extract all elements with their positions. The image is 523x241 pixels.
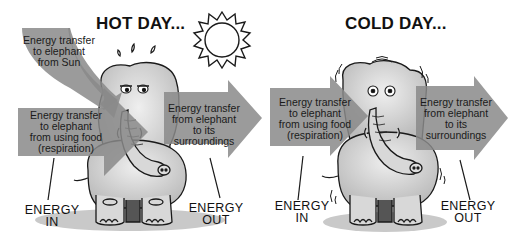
sun-icon [194,12,250,68]
sweat-drops-icon [118,44,155,56]
cold-day-title: COLD DAY... [345,14,447,34]
hot-energy-out-pointer [210,158,220,198]
cold-energy-out-pointer [460,160,470,200]
cold-energy-out-caption: ENERGY OUT [438,200,498,224]
cold-energy-in-label: Energy transfer to elephant from using f… [268,97,362,141]
hot-energy-out-label: Energy transfer from elephant to its sur… [166,103,242,147]
hot-day-title: HOT DAY... [96,14,185,34]
cold-energy-out-label: Energy transfer from elephant to its sur… [416,97,496,141]
hot-energy-in-caption: ENERGY IN [22,204,82,228]
hot-energy-out-caption: ENERGY OUT [186,202,246,226]
hot-energy-in-label: Energy transfer to elephant from using f… [16,110,116,154]
hot-sun-label: Energy transfer to elephant from Sun [18,35,100,68]
cold-energy-in-pointer [298,156,303,200]
energy-transfer-diagram: HOT DAY... COLD DAY... Energy transfer t… [0,0,523,241]
hot-energy-in-pointer [48,158,54,200]
cold-energy-in-caption: ENERGY IN [272,200,332,224]
